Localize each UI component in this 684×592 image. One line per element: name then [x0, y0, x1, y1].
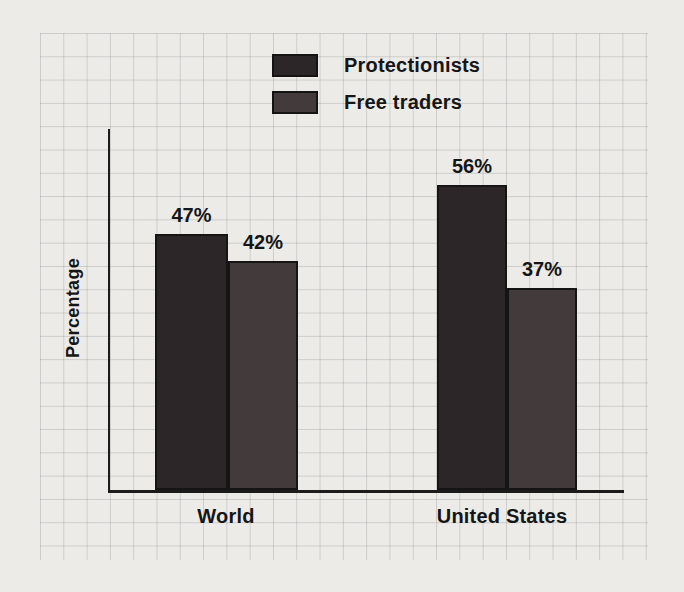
legend-item-protectionists: Protectionists — [272, 54, 480, 77]
bar-us-protectionists — [437, 185, 507, 491]
column-world-free-traders: 42% — [228, 231, 298, 490]
y-axis-title: Percentage — [63, 258, 84, 358]
value-label-world-free-traders: 42% — [243, 231, 283, 254]
legend-label-protectionists: Protectionists — [344, 54, 480, 77]
bar-world-protectionists — [155, 234, 228, 490]
column-world-protectionists: 47% — [155, 204, 228, 490]
graph-paper-page: { "chart_data": { "type": "bar", "catego… — [0, 0, 684, 592]
column-us-free-traders: 37% — [507, 258, 577, 490]
value-label-world-protectionists: 47% — [171, 204, 211, 227]
legend-swatch-free-traders — [272, 91, 318, 114]
legend-item-free-traders: Free traders — [272, 91, 480, 114]
legend: Protectionists Free traders — [272, 54, 480, 114]
bar-world-free-traders — [228, 261, 298, 490]
y-axis-line — [108, 129, 110, 492]
x-axis-line — [108, 490, 624, 493]
category-label-united-states: United States — [427, 505, 577, 528]
legend-swatch-protectionists — [272, 54, 318, 77]
category-label-world: World — [155, 505, 297, 528]
column-us-protectionists: 56% — [437, 155, 507, 491]
value-label-us-free-traders: 37% — [522, 258, 562, 281]
bar-us-free-traders — [507, 288, 577, 490]
legend-label-free-traders: Free traders — [344, 91, 462, 114]
value-label-us-protectionists: 56% — [452, 155, 492, 178]
